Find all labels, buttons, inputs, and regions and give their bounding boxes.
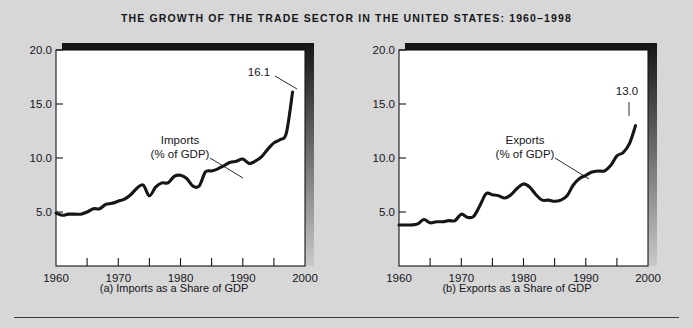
ytick-label-15: 15.0 bbox=[373, 98, 395, 110]
imports-chart-svg: 20.0 15.0 10.0 5.0 1960 1970 1980 1990 2… bbox=[14, 40, 334, 290]
panel-b-caption: (b) Exports as a Share of GDP bbox=[357, 282, 677, 294]
endpoint-value-label: 13.0 bbox=[616, 85, 638, 97]
bottom-divider-rule bbox=[14, 317, 679, 318]
figure-container: THE GROWTH OF THE TRADE SECTOR IN THE UN… bbox=[0, 0, 693, 328]
series-label-line2: (% of GDP) bbox=[496, 148, 555, 160]
ytick-label-20: 20.0 bbox=[373, 44, 395, 56]
panel-shadow-right bbox=[305, 43, 314, 266]
ytick-label-5: 5.0 bbox=[379, 206, 395, 218]
series-label-line1: Exports bbox=[506, 134, 545, 146]
series-label-line1: Imports bbox=[161, 134, 200, 146]
exports-chart-svg: 20.0 15.0 10.0 5.0 1960 1970 1980 1990 2… bbox=[357, 40, 677, 290]
endpoint-value-label: 16.1 bbox=[248, 66, 270, 78]
figure-title: THE GROWTH OF THE TRADE SECTOR IN THE UN… bbox=[0, 12, 693, 24]
series-label-line2: (% of GDP) bbox=[151, 148, 210, 160]
chart-panel-imports: 20.0 15.0 10.0 5.0 1960 1970 1980 1990 2… bbox=[14, 40, 334, 290]
panel-a-caption: (a) Imports as a Share of GDP bbox=[14, 282, 334, 294]
ytick-label-10: 10.0 bbox=[30, 152, 52, 164]
panel-shadow-top bbox=[62, 43, 312, 50]
panel-shadow-right bbox=[648, 43, 657, 266]
ytick-label-20: 20.0 bbox=[30, 44, 52, 56]
ytick-label-10: 10.0 bbox=[373, 152, 395, 164]
panel-shadow-top bbox=[405, 43, 655, 50]
ytick-label-15: 15.0 bbox=[30, 98, 52, 110]
ytick-label-5: 5.0 bbox=[36, 206, 52, 218]
chart-panel-exports: 20.0 15.0 10.0 5.0 1960 1970 1980 1990 2… bbox=[357, 40, 677, 290]
